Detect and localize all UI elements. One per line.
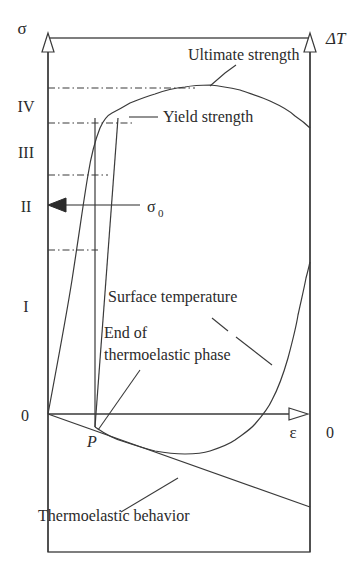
epsilon-axis-label: ε	[289, 423, 296, 442]
sigma0-label: σ	[147, 198, 156, 215]
figure-root: σ ΔT ε 0 0 IV III II I σ 0	[0, 0, 361, 580]
sigma0-subscript: 0	[158, 207, 164, 219]
sigma-axis-label: σ	[17, 19, 26, 38]
thermoelastic-behavior-line	[48, 414, 310, 507]
point-p-label: P	[86, 433, 97, 450]
annotation-end-of-thermoelastic-phase-line2: thermoelastic phase	[104, 346, 231, 364]
zone-label-ii: II	[21, 198, 32, 215]
annotation-end-of-thermoelastic-phase-line1: End of	[104, 324, 148, 341]
triangle-right-hollow-icon-epsilon	[289, 408, 308, 420]
annotation-ultimate-strength: Ultimate strength	[188, 46, 300, 64]
annotation-yield-strength: Yield strength	[163, 108, 253, 126]
stress-strain-temperature-diagram: σ ΔT ε 0 0 IV III II I σ 0	[0, 0, 361, 580]
leader-end-of-thermoelastic-phase	[98, 370, 140, 430]
triangle-left-solid-icon-sigma0	[48, 198, 66, 212]
right-origin-label: 0	[326, 424, 334, 441]
delta-t-axis-label: ΔT	[325, 29, 347, 48]
left-origin-label: 0	[21, 407, 29, 424]
leader-surface-temperature-a	[212, 318, 228, 331]
annotation-thermoelastic-behavior: Thermoelastic behavior	[38, 507, 190, 524]
zone-label-i: I	[23, 298, 28, 315]
leader-surface-temperature-b	[236, 337, 272, 365]
zone-label-iii: III	[18, 144, 34, 161]
leader-ultimate-strength	[210, 65, 236, 86]
zone-label-iv: IV	[18, 98, 35, 115]
triangle-up-hollow-icon-deltat	[304, 33, 316, 52]
annotation-surface-temperature: Surface temperature	[108, 288, 237, 306]
triangle-up-hollow-icon-sigma	[42, 33, 54, 52]
elastic-unloading-line	[95, 118, 118, 427]
